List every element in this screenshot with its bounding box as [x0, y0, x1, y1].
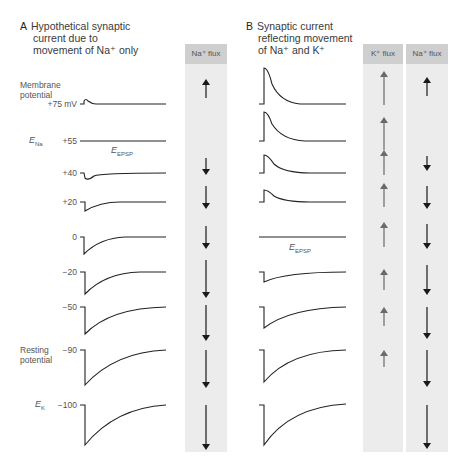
panel-b-trace-minus50: [259, 307, 346, 328]
panel-a-traces: [80, 100, 166, 446]
panel-b-trace-plus20: [259, 190, 346, 202]
panel-a-trace-plus40: [80, 173, 166, 179]
panel-a-trace-minus50: [80, 307, 166, 334]
panel-b-traces: [259, 68, 346, 445]
panel-b-trace-plus55: [259, 112, 346, 141]
panel-a-trace-minus90: [80, 350, 166, 385]
panel-a-trace-plus75: [80, 100, 166, 105]
panel-b-trace-plus75: [259, 68, 346, 104]
panel-a-trace-0: [80, 237, 166, 254]
panel-a-trace-minus20: [80, 272, 166, 294]
panel-b-trace-minus20: [259, 272, 346, 282]
panel-b-trace-minus90: [259, 350, 346, 382]
panel-a-trace-plus20: [80, 202, 166, 211]
panel-b-trace-minus100: [259, 404, 346, 445]
panel-b-trace-plus40: [259, 155, 346, 173]
panel-a-trace-minus100: [80, 405, 166, 445]
current-traces-figure: [0, 0, 458, 458]
